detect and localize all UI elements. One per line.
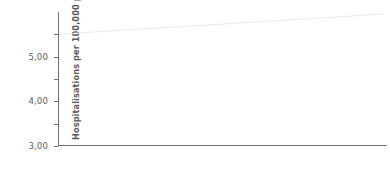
y-axis-tick-mark: 2,00 xyxy=(54,101,58,102)
x-axis-line xyxy=(58,145,387,147)
y-axis-tick-mark: 0 xyxy=(54,146,58,147)
background-artifact-line xyxy=(58,12,384,146)
y-axis-line xyxy=(58,12,59,146)
bar-chart: Hospitalisations per 100,000 population … xyxy=(0,0,390,181)
plot-area: 5,004,003,002,001,000 xyxy=(58,12,384,146)
y-axis-tick-label: 3,00 xyxy=(28,141,48,151)
y-axis-tick-mark: 4,00 xyxy=(54,57,58,58)
y-axis-tick-mark: 3,00 xyxy=(54,79,58,80)
y-axis-tick-mark: 1,00 xyxy=(54,124,58,125)
y-axis-tick-mark: 5,00 xyxy=(54,34,58,35)
plot-area-wrapper: 5,004,003,002,001,000 xyxy=(58,12,384,146)
y-axis-tick-label: 4,00 xyxy=(28,96,48,106)
y-axis-tick-label: 5,00 xyxy=(28,52,48,62)
